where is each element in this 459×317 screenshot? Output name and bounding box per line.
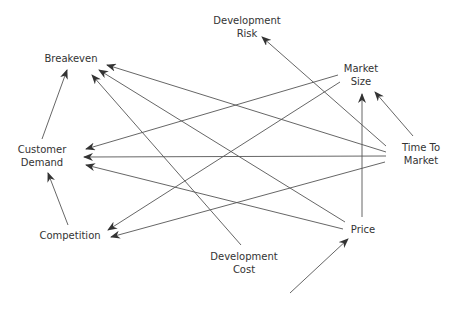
- edge-development-cost-to-breakeven: [92, 75, 241, 245]
- edge-development-cost-to-price: [290, 239, 348, 293]
- node-development-risk: DevelopmentRisk: [213, 14, 280, 40]
- node-label-line: Customer: [18, 143, 67, 156]
- node-label-line: Risk: [213, 27, 280, 40]
- node-label-line: Market: [344, 62, 378, 75]
- edge-customer-demand-to-breakeven: [42, 70, 67, 139]
- node-development-cost: DevelopmentCost: [210, 250, 277, 276]
- node-label-line: Development: [210, 250, 277, 263]
- node-label-line: Demand: [18, 156, 67, 169]
- node-breakeven: Breakeven: [44, 52, 97, 65]
- node-price: Price: [351, 223, 375, 236]
- node-time-to-market: Time ToMarket: [402, 141, 440, 167]
- node-label-line: Market: [402, 154, 440, 167]
- node-label-line: Competition: [39, 229, 100, 242]
- node-label-line: Development: [213, 14, 280, 27]
- edge-time-to-market-to-market-size: [375, 92, 413, 136]
- node-label-line: Breakeven: [44, 52, 97, 65]
- edge-competition-to-customer-demand: [48, 173, 68, 225]
- node-label-line: Size: [344, 75, 378, 88]
- edge-time-to-market-to-customer-demand: [84, 156, 386, 157]
- edge-time-to-market-to-competition: [111, 162, 385, 237]
- edge-market-size-to-customer-demand: [86, 75, 338, 149]
- node-market-size: MarketSize: [344, 62, 378, 88]
- node-label-line: Time To: [402, 141, 440, 154]
- node-label-line: Cost: [210, 263, 277, 276]
- node-customer-demand: CustomerDemand: [18, 143, 67, 169]
- node-competition: Competition: [39, 229, 100, 242]
- node-label-line: Price: [351, 223, 375, 236]
